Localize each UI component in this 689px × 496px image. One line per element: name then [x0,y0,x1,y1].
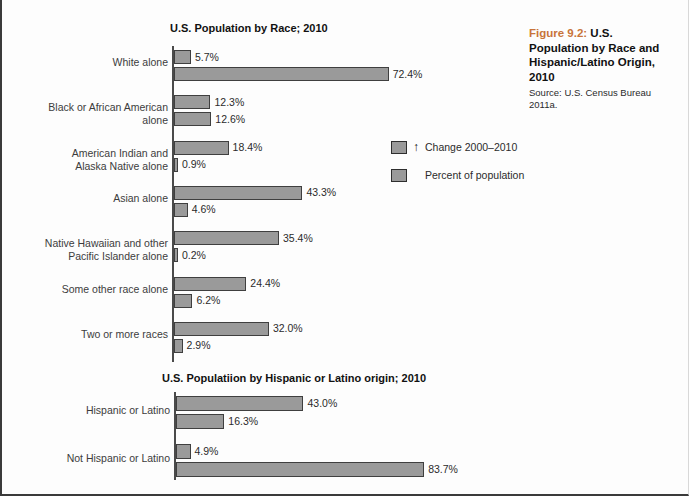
bar-value-label: 35.4% [283,232,313,245]
bar-change-2000-2010 [176,396,303,411]
category-label: Native Hawaiian and other Pacific Island… [22,237,168,263]
bar-value-label: 5.7% [195,51,219,64]
bar-change-2000-2010 [174,186,302,200]
bar-value-label: 12.6% [215,113,245,126]
figure-number: Figure 9.2: [529,27,587,39]
category-label: Two or more races [22,328,168,341]
up-arrow-icon: ↑ [413,139,419,156]
caption-title-part-1: U.S. [590,27,612,39]
category-label: White alone [22,56,168,69]
bar-percent-of-population [176,462,424,477]
category-label: Not Hispanic or Latino [24,452,170,465]
caption-title-line-1: Figure 9.2: U.S. [529,26,681,41]
category-label: American Indian and Alaska Native alone [22,147,168,173]
bar-percent-of-population [174,294,192,308]
legend-label-percent: Percent of population [425,167,524,184]
bar-value-label: 4.9% [195,445,219,458]
bar-change-2000-2010 [174,277,246,291]
caption-source: Source: U.S. Census Bureau 2011a. [529,87,681,111]
bar-percent-of-population [174,158,178,172]
bar-change-2000-2010 [174,50,191,64]
bar-percent-of-population [174,67,389,81]
bar-change-2000-2010 [174,95,210,109]
category-label: Asian alone [22,192,168,205]
bar-value-label: 0.2% [182,249,206,262]
bar-change-2000-2010 [174,141,229,155]
chart-title-hispanic: U.S. Populatiion by Hispanic or Latino o… [162,372,426,384]
bar-value-label: 4.6% [192,203,216,216]
bar-change-2000-2010 [174,322,269,336]
category-label: Some other race alone [22,283,168,296]
bar-percent-of-population [176,414,224,429]
bar-value-label: 16.3% [228,415,258,428]
bar-value-label: 24.4% [250,277,280,290]
legend-swatch-change [391,141,407,154]
bar-value-label: 18.4% [233,141,263,154]
bar-percent-of-population [174,112,211,126]
bar-percent-of-population [174,339,183,353]
bar-change-2000-2010 [176,444,191,459]
chart-title-race: U.S. Population by Race; 2010 [170,22,328,34]
bar-value-label: 83.7% [428,463,458,476]
bar-value-label: 43.0% [307,397,337,410]
caption-title-line-2: Population by Race and [529,41,681,56]
category-label: Black or African American alone [22,101,168,127]
bar-percent-of-population [174,203,188,217]
figure-caption: Figure 9.2: U.S. Population by Race and … [529,26,681,111]
category-label: Hispanic or Latino [24,404,170,417]
legend-label-change: Change 2000–2010 [425,139,517,156]
bar-change-2000-2010 [174,231,279,245]
bar-value-label: 6.2% [196,294,220,307]
bar-value-label: 2.9% [187,339,211,352]
figure-page: Figure 9.2: U.S. Population by Race and … [0,0,689,496]
bar-value-label: 0.9% [182,158,206,171]
bar-percent-of-population [174,248,178,262]
bar-value-label: 12.3% [214,96,244,109]
bar-value-label: 72.4% [393,68,423,81]
bar-value-label: 32.0% [273,322,303,335]
caption-title-line-4: 2010 [529,70,681,85]
caption-title-line-3: Hispanic/Latino Origin, [529,55,681,70]
legend-swatch-percent [391,169,407,182]
bar-value-label: 43.3% [306,186,336,199]
